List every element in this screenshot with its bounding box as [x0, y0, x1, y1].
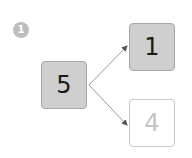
arrow-to-top [89, 46, 127, 85]
top-part-value: 1 [144, 33, 159, 61]
root-value: 5 [56, 71, 71, 99]
top-part-box: 1 [129, 23, 175, 71]
bottom-part-value: 4 [144, 109, 159, 137]
root-number-box: 5 [41, 61, 87, 109]
bottom-part-box: 4 [129, 99, 175, 147]
arrow-to-bottom [89, 85, 127, 125]
